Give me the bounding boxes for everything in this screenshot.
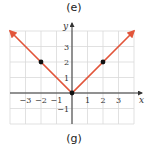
panel-label-g: (g) <box>0 132 148 145</box>
x-axis-label: x <box>139 95 144 105</box>
x-tick-label: 2 <box>100 96 105 105</box>
y-axis-label: y <box>62 21 69 31</box>
x-tick-label: −2 <box>35 96 47 105</box>
y-tick-label: 3 <box>64 43 69 52</box>
y-tick-label: 2 <box>64 58 69 67</box>
y-tick-label: −1 <box>57 105 69 114</box>
x-tick-label: −3 <box>20 96 32 105</box>
y-tick-label: 1 <box>64 74 69 83</box>
data-point <box>70 91 75 96</box>
graph: xy−3−2−1123−1123 <box>0 0 148 153</box>
data-point <box>39 60 44 65</box>
x-tick-label: 1 <box>85 96 90 105</box>
data-point <box>101 60 106 65</box>
x-tick-label: 3 <box>116 96 121 105</box>
